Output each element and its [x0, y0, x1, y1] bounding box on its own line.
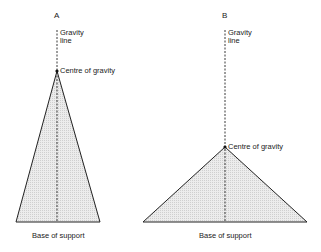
base-of-support-label-a: Base of support: [32, 232, 85, 240]
diagram-shapes: [0, 0, 321, 252]
gravity-line-label-a-2: line: [60, 37, 72, 45]
gravity-line-label-b-2: line: [228, 37, 240, 45]
stability-diagram: A Gravity line Centre of gravity Base of…: [0, 0, 321, 252]
centre-of-gravity-label-b: Centre of gravity: [228, 143, 283, 151]
centre-of-gravity-label-a: Centre of gravity: [60, 67, 115, 75]
figure-label-b: B: [222, 12, 227, 20]
triangle-a: [16, 71, 100, 222]
figure-label-a: A: [54, 12, 59, 20]
centre-of-gravity-a: [55, 69, 58, 72]
base-of-support-label-b: Base of support: [199, 232, 252, 240]
centre-of-gravity-b: [223, 145, 226, 148]
